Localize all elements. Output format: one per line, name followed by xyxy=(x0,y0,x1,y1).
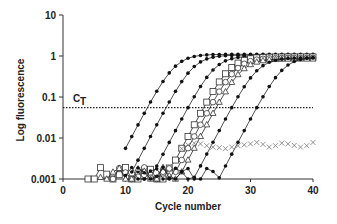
data-point xyxy=(205,76,209,80)
series-sample-5 xyxy=(110,55,316,182)
data-point xyxy=(249,117,253,121)
data-point xyxy=(130,135,134,139)
data-point xyxy=(236,141,240,145)
data-point xyxy=(174,90,178,94)
data-point xyxy=(217,145,222,150)
data-point xyxy=(167,141,171,145)
data-point xyxy=(142,171,146,175)
data-point xyxy=(161,112,165,116)
data-point xyxy=(161,166,165,170)
threshold: CT xyxy=(63,93,313,108)
data-point xyxy=(224,59,228,63)
data-point xyxy=(267,60,271,64)
x-tick-label: 40 xyxy=(307,185,319,196)
data-point xyxy=(274,58,278,62)
data-point xyxy=(261,142,266,147)
data-point xyxy=(149,177,153,181)
data-point xyxy=(186,71,190,75)
data-point xyxy=(304,143,309,148)
data-point xyxy=(110,176,116,182)
data-point xyxy=(174,177,178,181)
x-tick-label: 30 xyxy=(245,185,257,196)
data-point xyxy=(185,157,191,162)
data-point xyxy=(217,54,221,58)
data-point xyxy=(230,106,234,110)
data-point xyxy=(191,122,197,128)
data-point xyxy=(186,56,190,60)
y-tick-label: 10 xyxy=(45,10,57,21)
y-tick-label: 0.1 xyxy=(42,92,56,103)
data-point xyxy=(279,141,284,146)
data-point xyxy=(186,167,190,171)
data-point xyxy=(161,177,165,181)
y-axis-title: Log fluorescence xyxy=(15,58,26,141)
data-point xyxy=(224,117,228,121)
data-point xyxy=(230,57,234,61)
data-point xyxy=(186,106,190,110)
data-point xyxy=(167,176,171,180)
data-point xyxy=(280,57,284,61)
data-point xyxy=(180,60,184,64)
series-line xyxy=(126,58,314,179)
series-sample-7 xyxy=(124,56,315,181)
data-point xyxy=(229,64,235,70)
data-point xyxy=(199,177,203,181)
data-point xyxy=(311,140,316,145)
series-sample-4 xyxy=(85,54,316,182)
series-line xyxy=(88,57,313,179)
data-point xyxy=(273,143,278,148)
data-point xyxy=(217,176,221,180)
data-point xyxy=(210,89,216,95)
data-point xyxy=(223,71,229,77)
data-point xyxy=(136,177,140,181)
data-point xyxy=(223,79,229,85)
data-point xyxy=(255,69,259,73)
data-point xyxy=(217,129,221,133)
y-tick-label: 0.001 xyxy=(31,174,56,185)
data-point xyxy=(136,123,140,127)
data-point xyxy=(155,90,159,94)
data-point xyxy=(211,55,215,59)
data-point xyxy=(261,64,265,68)
data-point xyxy=(142,177,146,181)
series-group xyxy=(85,53,316,182)
y-tick-label: 1 xyxy=(50,51,56,62)
data-point xyxy=(142,112,146,116)
data-point xyxy=(167,71,171,75)
data-point xyxy=(179,157,185,163)
data-point xyxy=(155,174,159,178)
data-point xyxy=(229,71,235,77)
data-point xyxy=(235,65,241,71)
data-point xyxy=(286,141,291,146)
data-point xyxy=(136,166,140,170)
data-point xyxy=(161,152,165,156)
data-point xyxy=(98,174,104,179)
data-point xyxy=(224,54,228,58)
chart: 0.0010.010.1110010203040 CT Log fluoresc… xyxy=(0,0,337,224)
data-point xyxy=(174,64,178,68)
data-point xyxy=(204,110,210,116)
data-point xyxy=(210,110,216,115)
data-point xyxy=(180,80,184,84)
data-point xyxy=(98,165,104,171)
x-axis-title: Cycle number xyxy=(155,201,221,212)
data-point xyxy=(198,110,204,116)
data-point xyxy=(166,166,172,172)
data-point xyxy=(311,56,315,60)
series-line xyxy=(113,58,313,179)
data-point xyxy=(185,133,191,139)
data-point xyxy=(211,140,215,144)
data-point xyxy=(292,56,296,60)
data-point xyxy=(229,145,234,150)
data-point xyxy=(199,164,203,168)
data-point xyxy=(286,63,290,67)
data-point xyxy=(274,76,278,80)
threshold-label-subscript: T xyxy=(80,96,86,107)
series-negative-control xyxy=(179,140,315,151)
series-sample-6 xyxy=(98,56,317,181)
data-point xyxy=(267,145,272,150)
data-point xyxy=(174,166,178,170)
data-point xyxy=(286,57,290,61)
data-point xyxy=(180,117,184,121)
data-point xyxy=(292,143,297,148)
